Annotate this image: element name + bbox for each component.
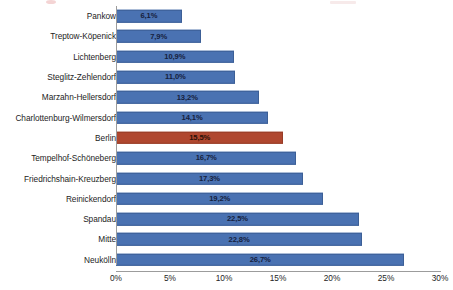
bar-row: Charlottenburg-Wilmersdorf14,1%: [0, 107, 453, 127]
bar-row: Pankow6,1%: [0, 6, 453, 26]
bar[interactable]: 13,2%: [116, 91, 259, 104]
bar-row: Berlin15,5%: [0, 128, 453, 148]
bar-row: Tempelhof-Schöneberg16,7%: [0, 148, 453, 168]
value-axis-ticks: 0%5%10%15%20%25%30%: [0, 274, 453, 288]
category-label: Marzahn-Hellersdorf: [42, 93, 116, 101]
bar[interactable]: 16,7%: [116, 152, 296, 165]
bar-value-label: 11,0%: [117, 73, 234, 81]
axis-tick-label: 30%: [432, 274, 449, 282]
bar-value-label: 13,2%: [117, 94, 258, 102]
axis-tick-label: 25%: [378, 274, 395, 282]
plot-area: Pankow6,1%Treptow-Köpenick7,9%Lichtenber…: [0, 6, 453, 268]
category-label: Mitte: [98, 235, 116, 243]
bar[interactable]: 22,5%: [116, 213, 359, 226]
bar-row: Mitte22,8%: [0, 229, 453, 249]
category-label: Berlin: [95, 134, 116, 142]
category-label: Pankow: [87, 12, 116, 20]
bar[interactable]: 11,0%: [116, 71, 235, 84]
bar-chart: Pankow6,1%Treptow-Köpenick7,9%Lichtenber…: [0, 0, 453, 290]
axis-tick-label: 10%: [216, 274, 233, 282]
bar-row: Reinickendorf19,2%: [0, 189, 453, 209]
bar[interactable]: 7,9%: [116, 30, 201, 43]
category-axis-line: [116, 6, 117, 265]
bar-rows: Pankow6,1%Treptow-Köpenick7,9%Lichtenber…: [0, 6, 453, 270]
bar-row: Lichtenberg10,9%: [0, 47, 453, 67]
axis-tick-label: 20%: [324, 274, 341, 282]
category-label: Friedrichshain-Kreuzberg: [24, 174, 116, 182]
bar[interactable]: 17,3%: [116, 172, 303, 185]
bar-value-label: 22,8%: [117, 236, 361, 244]
bar-row: Friedrichshain-Kreuzberg17,3%: [0, 168, 453, 188]
bar[interactable]: 19,2%: [116, 193, 323, 206]
category-label: Neukölln: [84, 256, 116, 264]
bar-value-label: 22,5%: [117, 215, 358, 223]
bar[interactable]: 26,7%: [116, 253, 404, 266]
category-label: Steglitz-Zehlendorf: [47, 73, 116, 81]
value-axis-line: [116, 271, 441, 272]
bar-row: Treptow-Köpenick7,9%: [0, 26, 453, 46]
bar[interactable]: 10,9%: [116, 50, 234, 63]
bar-row: Steglitz-Zehlendorf11,0%: [0, 67, 453, 87]
axis-tick-label: 0%: [110, 274, 122, 282]
bar-value-label: 7,9%: [117, 33, 200, 41]
bar-value-label: 14,1%: [117, 114, 267, 122]
cropped-title-remnant-right: [330, 1, 356, 4]
axis-tick-label: 15%: [270, 274, 287, 282]
bar-highlight[interactable]: 15,5%: [116, 132, 283, 145]
category-label: Charlottenburg-Wilmersdorf: [15, 113, 116, 121]
bar-value-label: 10,9%: [117, 53, 233, 61]
bar[interactable]: 14,1%: [116, 111, 268, 124]
category-label: Tempelhof-Schöneberg: [31, 154, 116, 162]
bar-value-label: 16,7%: [117, 154, 295, 162]
bar-row: Spandau22,5%: [0, 209, 453, 229]
axis-tick-label: 5%: [164, 274, 176, 282]
bar[interactable]: 22,8%: [116, 233, 362, 246]
bar-value-label: 6,1%: [117, 12, 181, 20]
bar-row: Marzahn-Hellersdorf13,2%: [0, 87, 453, 107]
bar[interactable]: 6,1%: [116, 10, 182, 23]
bar-row: Neukölln26,7%: [0, 250, 453, 270]
bar-value-label: 19,2%: [117, 195, 322, 203]
category-label: Lichtenberg: [73, 53, 116, 61]
bar-value-label: 15,5%: [117, 134, 282, 142]
cropped-title-remnant: [46, 0, 56, 4]
bar-value-label: 17,3%: [117, 175, 302, 183]
bar-value-label: 26,7%: [117, 256, 403, 264]
category-label: Spandau: [83, 215, 116, 223]
category-label: Treptow-Köpenick: [50, 32, 116, 40]
category-label: Reinickendorf: [66, 195, 116, 203]
